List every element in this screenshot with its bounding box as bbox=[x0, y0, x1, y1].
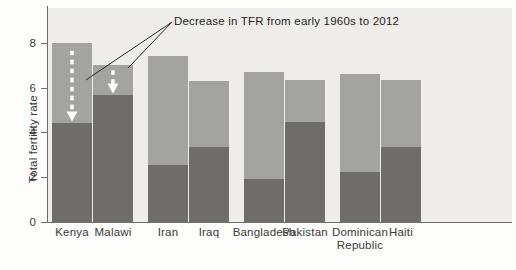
bar-malawi bbox=[93, 65, 133, 222]
bar-segment-2012 bbox=[340, 172, 380, 222]
bar-segment-2012 bbox=[148, 165, 188, 222]
x-axis-line bbox=[41, 222, 512, 223]
chart-figure: 86420 Total fertility rate KenyaMalawiIr… bbox=[0, 0, 516, 270]
bar-kenya bbox=[52, 43, 92, 222]
bar-dominican-republic bbox=[340, 74, 380, 222]
bar-pakistan bbox=[285, 80, 325, 222]
bar-iraq bbox=[189, 81, 229, 222]
x-label-haiti: Haiti bbox=[367, 226, 435, 239]
y-tick-mark bbox=[41, 177, 47, 178]
bar-segment-2012 bbox=[285, 122, 325, 222]
y-axis-line bbox=[47, 6, 48, 223]
bar-segment-2012 bbox=[244, 179, 284, 222]
bar-iran bbox=[148, 56, 188, 222]
y-tick-mark bbox=[41, 132, 47, 133]
y-tick-mark bbox=[41, 88, 47, 89]
bar-bangladesh bbox=[244, 72, 284, 222]
y-axis-title: Total fertility rate bbox=[27, 59, 39, 219]
bar-segment-2012 bbox=[93, 95, 133, 222]
bar-haiti bbox=[381, 80, 421, 222]
bar-segment-2012 bbox=[189, 147, 229, 222]
bar-segment-2012 bbox=[52, 123, 92, 222]
y-tick-mark bbox=[41, 222, 47, 223]
x-label-line: Republic bbox=[326, 239, 394, 252]
annotation-label: Decrease in TFR from early 1960s to 2012 bbox=[174, 15, 399, 27]
y-tick-mark bbox=[41, 43, 47, 44]
x-label-line: Haiti bbox=[367, 226, 435, 239]
y-tick-label: 8 bbox=[12, 37, 36, 49]
bar-segment-2012 bbox=[381, 147, 421, 222]
